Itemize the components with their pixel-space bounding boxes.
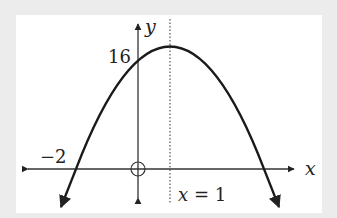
axis-of-symmetry-var: x xyxy=(178,184,188,205)
axis-of-symmetry-eq: = 1 xyxy=(194,184,226,205)
x-axis-label: x xyxy=(305,157,316,179)
y-axis-label: y xyxy=(144,15,156,37)
x-intercept-label: −2 xyxy=(40,146,67,167)
parabola-graph: y x 16 −2 x = 1 xyxy=(0,0,337,218)
axis-of-symmetry-label: x = 1 xyxy=(178,184,226,205)
parabola-right-tail xyxy=(264,169,279,207)
y-intercept-label: 16 xyxy=(108,46,131,67)
parabola-left-tail xyxy=(61,169,76,207)
